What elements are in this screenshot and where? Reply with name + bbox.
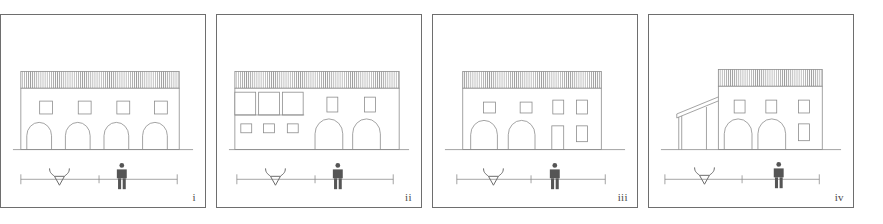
ox-head-icon	[50, 168, 70, 185]
ox-head-icon	[266, 168, 286, 185]
upper-window	[117, 101, 130, 114]
building-body	[21, 88, 179, 149]
human-figure-icon	[774, 162, 784, 188]
lower-window	[264, 124, 275, 133]
human-figure-icon	[550, 163, 560, 189]
upper-window	[327, 97, 338, 112]
loggia-bay	[282, 92, 303, 115]
panel-iii-drawing	[433, 15, 637, 207]
panel-iv: iv	[648, 14, 854, 208]
roof-band	[463, 71, 602, 88]
lower-window	[287, 124, 298, 133]
upper-window	[40, 101, 53, 114]
panel-gap	[638, 0, 648, 1]
panel-label: ii	[405, 192, 412, 203]
human-figure-icon	[333, 163, 343, 189]
lower-window	[799, 124, 810, 141]
panel-ii: ii	[216, 14, 422, 208]
ox-head-icon	[484, 168, 504, 185]
loggia-bay	[235, 92, 256, 115]
upper-window	[766, 100, 777, 113]
ox-head-icon	[695, 167, 715, 184]
ground-window	[577, 126, 588, 142]
ground-door	[552, 126, 564, 150]
roof-band	[21, 71, 179, 88]
lean-to-shed	[677, 96, 721, 149]
panel-iv-drawing	[649, 15, 853, 207]
upper-window	[365, 97, 376, 112]
upper-window	[799, 100, 810, 113]
loggia-bay	[259, 92, 280, 115]
panel-i-drawing	[1, 15, 205, 207]
roof-band	[235, 71, 399, 88]
upper-window	[734, 100, 745, 113]
upper-window	[520, 102, 532, 113]
human-figure-icon	[117, 163, 127, 189]
elevation-figure-strip: i	[0, 0, 883, 224]
panel-label: iv	[835, 192, 844, 203]
roof-band	[718, 69, 822, 86]
panel-iii: iii	[432, 14, 638, 208]
panel-i: i	[0, 14, 206, 208]
upper-window	[484, 102, 496, 113]
upper-window	[154, 101, 167, 114]
upper-window	[577, 100, 588, 114]
panel-label: i	[193, 192, 196, 203]
lower-window	[241, 124, 252, 133]
panel-gap	[206, 0, 216, 1]
panel-ii-drawing	[217, 15, 421, 207]
panel-gap	[422, 0, 432, 1]
upper-window	[78, 101, 91, 114]
upper-window	[553, 100, 564, 114]
panel-label: iii	[618, 192, 628, 203]
